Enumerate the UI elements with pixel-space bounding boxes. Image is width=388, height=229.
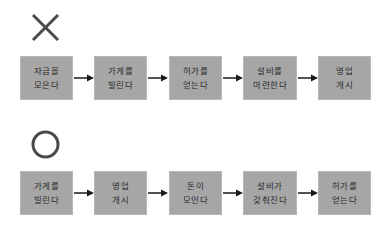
step-label: 가게를 bbox=[108, 64, 134, 78]
step-label: 가게를 bbox=[34, 179, 60, 193]
wrong-step-1: 자금을 모은다 bbox=[21, 57, 72, 99]
wrong-step-4: 설비를 마련한다 bbox=[244, 57, 296, 99]
step-label: 영업 bbox=[112, 179, 129, 193]
step-label: 개시 bbox=[336, 78, 353, 92]
step-label: 갖춰진다 bbox=[253, 193, 287, 207]
step-label: 빌린다 bbox=[108, 78, 134, 92]
arrow-right-icon bbox=[148, 189, 168, 197]
step-label: 개시 bbox=[112, 193, 129, 207]
arrow-right-icon bbox=[74, 189, 94, 197]
circle-mark-icon bbox=[31, 130, 60, 159]
right-step-2: 영업 개시 bbox=[95, 172, 146, 214]
right-step-3: 돈이 모인다 bbox=[170, 172, 221, 214]
wrong-flow-row: 자금을 모은다 가게를 빌린다 허가를 얻는다 설비를 마련한다 영업 개시 bbox=[0, 57, 388, 99]
step-label: 영업 bbox=[336, 64, 353, 78]
step-label: 설비가 bbox=[257, 179, 283, 193]
step-label: 허가를 bbox=[183, 64, 209, 78]
step-label: 설비를 bbox=[257, 64, 283, 78]
step-label: 빌린다 bbox=[34, 193, 60, 207]
step-label: 마련한다 bbox=[253, 78, 287, 92]
arrow-right-icon bbox=[223, 74, 243, 82]
step-label: 돈이 bbox=[187, 179, 204, 193]
right-flow-row: 가게를 빌린다 영업 개시 돈이 모인다 설비가 갖춰진다 허가를 얻는다 bbox=[0, 172, 388, 214]
right-step-5: 허가를 얻는다 bbox=[319, 172, 370, 214]
right-step-4: 설비가 갖춰진다 bbox=[244, 172, 296, 214]
arrow-right-icon bbox=[74, 74, 94, 82]
step-label: 모인다 bbox=[183, 193, 209, 207]
right-step-1: 가게를 빌린다 bbox=[21, 172, 72, 214]
x-mark-icon bbox=[31, 13, 60, 42]
arrow-right-icon bbox=[223, 189, 243, 197]
wrong-step-5: 영업 개시 bbox=[319, 57, 370, 99]
arrow-right-icon bbox=[298, 189, 318, 197]
wrong-step-2: 가게를 빌린다 bbox=[95, 57, 146, 99]
step-label: 자금을 bbox=[34, 64, 60, 78]
step-label: 허가를 bbox=[332, 179, 358, 193]
wrong-step-3: 허가를 얻는다 bbox=[170, 57, 221, 99]
step-label: 얻는다 bbox=[332, 193, 358, 207]
arrow-right-icon bbox=[148, 74, 168, 82]
step-label: 모은다 bbox=[34, 78, 60, 92]
step-label: 얻는다 bbox=[183, 78, 209, 92]
arrow-right-icon bbox=[298, 74, 318, 82]
